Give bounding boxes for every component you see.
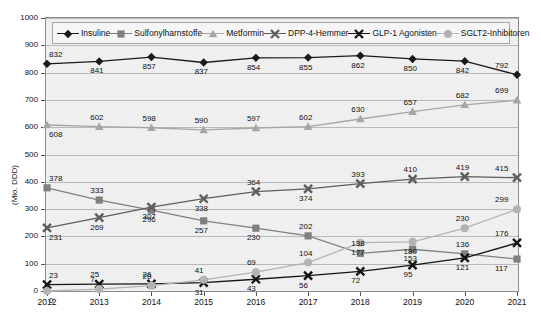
- data-point-marker: [252, 268, 260, 276]
- legend-item-sglt2-inhibitoren[interactable]: SGLT2-Inhibitoren: [437, 28, 530, 38]
- data-point-label: 832: [49, 50, 62, 59]
- data-point-marker: [513, 71, 521, 79]
- data-point-marker: [43, 60, 51, 68]
- legend-item-metformin[interactable]: Metformin: [202, 28, 264, 38]
- data-point-label: 0: [49, 296, 53, 305]
- data-point-marker: [118, 30, 125, 37]
- legend-marker-icon: [110, 33, 132, 34]
- data-point-marker: [96, 196, 103, 203]
- data-point-marker: [461, 57, 469, 65]
- legend-item-insuline[interactable]: Insuline: [57, 28, 110, 38]
- data-point-label: 136: [456, 240, 469, 249]
- data-point-marker: [304, 259, 312, 267]
- data-point-label: 597: [247, 114, 260, 123]
- data-point-marker: [209, 29, 218, 37]
- data-point-label: 338: [195, 204, 208, 213]
- data-point-marker: [43, 184, 50, 191]
- data-point-marker: [355, 30, 363, 38]
- series-line: [47, 243, 517, 285]
- data-point-label: 231: [49, 233, 62, 242]
- data-point-label: 269: [90, 223, 103, 232]
- data-point-label: 682: [456, 91, 469, 100]
- data-point-label: 837: [195, 67, 208, 76]
- data-point-marker: [147, 282, 155, 290]
- chart-container: (Mio. DDD) 01002003004005006007008009001…: [0, 0, 541, 322]
- data-point-label: 117: [495, 264, 508, 273]
- data-point-marker: [252, 54, 260, 62]
- data-point-label: 121: [456, 263, 469, 272]
- data-point-marker: [43, 287, 51, 295]
- data-point-label: 374: [299, 194, 312, 203]
- data-point-label: 608: [49, 130, 62, 139]
- data-point-label: 862: [351, 61, 364, 70]
- legend-item-glp-1-agonisten[interactable]: GLP-1 Agonisten: [348, 28, 436, 38]
- data-point-label: 410: [404, 165, 417, 174]
- data-point-label: 854: [247, 63, 260, 72]
- data-point-label: 842: [456, 66, 469, 75]
- data-point-label: 177: [351, 248, 364, 257]
- data-point-label: 299: [495, 195, 508, 204]
- legend-marker-icon: [57, 33, 79, 34]
- data-point-label: 602: [299, 113, 312, 122]
- data-point-label: 176: [495, 229, 508, 238]
- data-point-marker: [305, 232, 312, 239]
- legend-label: SGLT2-Inhibitoren: [461, 28, 530, 38]
- data-point-label: 307: [142, 212, 155, 221]
- legend-label: GLP-1 Agonisten: [372, 28, 436, 38]
- legend-label: Insuline: [81, 28, 110, 38]
- legend-label: Sulfonylharnstoffe: [134, 28, 202, 38]
- data-point-label: 95: [404, 270, 413, 279]
- data-point-marker: [513, 205, 521, 213]
- data-point-marker: [199, 58, 207, 66]
- legend-item-sulfonylharnstoffe[interactable]: Sulfonylharnstoffe: [110, 28, 202, 38]
- data-point-marker: [408, 55, 416, 63]
- data-point-label: 857: [142, 62, 155, 71]
- data-point-label: 23: [49, 271, 58, 280]
- data-point-label: 230: [456, 214, 469, 223]
- data-point-label: 699: [495, 86, 508, 95]
- data-point-label: 43: [247, 284, 256, 293]
- data-point-marker: [304, 53, 312, 61]
- data-point-label: 598: [142, 114, 155, 123]
- data-point-label: 850: [404, 64, 417, 73]
- data-point-marker: [271, 30, 279, 38]
- data-point-label: 20: [142, 272, 151, 281]
- data-point-label: 7: [90, 275, 94, 284]
- data-point-marker: [64, 29, 72, 37]
- data-point-marker: [356, 51, 364, 59]
- series-layer: [0, 0, 541, 322]
- data-point-label: 841: [90, 66, 103, 75]
- data-point-marker: [513, 255, 520, 262]
- data-point-label: 792: [495, 61, 508, 70]
- data-point-marker: [95, 285, 103, 293]
- data-point-marker: [461, 224, 469, 232]
- data-point-label: 630: [351, 105, 364, 114]
- data-point-label: 257: [195, 226, 208, 235]
- series-line: [47, 177, 517, 228]
- legend-item-dpp-4-hemmer[interactable]: DPP-4-Hemmer: [264, 28, 348, 38]
- data-point-label: 69: [247, 258, 256, 267]
- data-point-marker: [252, 225, 259, 232]
- data-point-label: 602: [90, 113, 103, 122]
- legend-label: DPP-4-Hemmer: [288, 28, 348, 38]
- data-point-label: 657: [404, 98, 417, 107]
- data-point-label: 202: [299, 222, 312, 231]
- data-point-label: 72: [351, 276, 360, 285]
- data-point-label: 230: [247, 233, 260, 242]
- series-line: [47, 188, 517, 259]
- data-point-label: 333: [90, 186, 103, 195]
- data-point-label: 180: [404, 247, 417, 256]
- data-point-label: 31: [195, 288, 204, 297]
- series-line: [47, 56, 517, 75]
- chart-legend: InsulineSulfonylharnstoffeMetforminDPP-4…: [52, 22, 510, 44]
- data-point-label: 378: [49, 174, 62, 183]
- data-point-label: 104: [299, 249, 312, 258]
- data-point-marker: [444, 30, 452, 38]
- legend-marker-icon: [202, 33, 224, 34]
- data-point-marker: [200, 217, 207, 224]
- data-point-marker: [95, 57, 103, 65]
- data-point-label: 364: [247, 178, 260, 187]
- data-point-label: 41: [195, 266, 204, 275]
- data-point-marker: [513, 239, 521, 247]
- data-point-marker: [200, 276, 208, 284]
